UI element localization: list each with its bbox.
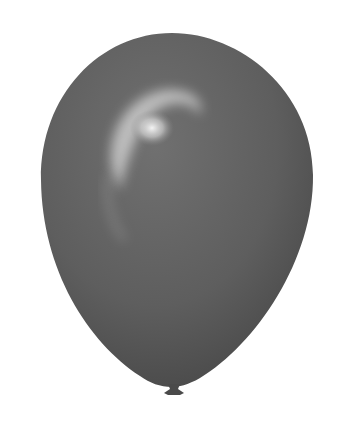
balloon-highlight-spot	[130, 110, 174, 146]
balloon-body	[41, 33, 313, 387]
balloon-image	[0, 0, 342, 425]
